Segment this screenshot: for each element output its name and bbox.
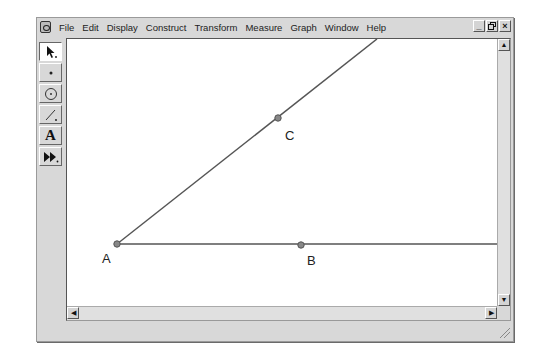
app-icon[interactable]: [40, 21, 51, 33]
menu-bar: File Edit Display Construct Transform Me…: [37, 18, 513, 36]
sketch-area: A B C ▲ ▼ ◀ ▶: [66, 38, 511, 321]
custom-tool[interactable]: [39, 147, 62, 166]
compass-icon: [44, 87, 58, 101]
straightedge-icon: [44, 108, 58, 122]
point-icon: [46, 68, 56, 78]
text-tool[interactable]: A: [39, 126, 62, 145]
minimize-icon: _: [476, 21, 481, 31]
scroll-down-button[interactable]: ▼: [498, 294, 510, 306]
window-controls: _ ×: [473, 20, 511, 32]
restore-icon: [488, 22, 496, 30]
geometry-svg: [67, 39, 497, 306]
vertical-scrollbar[interactable]: ▲ ▼: [497, 39, 510, 306]
horizontal-scrollbar[interactable]: ◀ ▶: [67, 306, 497, 320]
down-arrow-icon: ▼: [501, 296, 508, 303]
point-c[interactable]: [275, 115, 281, 121]
sketchpad-window: File Edit Display Construct Transform Me…: [36, 17, 514, 342]
straightedge-tool[interactable]: [39, 105, 62, 124]
left-arrow-icon: ◀: [71, 309, 76, 316]
point-tool[interactable]: [39, 63, 62, 82]
menu-transform[interactable]: Transform: [191, 22, 242, 33]
custom-tool-icon: [43, 151, 59, 163]
label-c[interactable]: C: [285, 128, 294, 143]
right-arrow-icon: ▶: [489, 309, 494, 316]
menu-graph[interactable]: Graph: [286, 22, 320, 33]
text-icon: A: [45, 127, 56, 144]
menu-display[interactable]: Display: [103, 22, 142, 33]
label-b[interactable]: B: [307, 253, 316, 268]
ray-ac[interactable]: [117, 39, 377, 244]
menu-file[interactable]: File: [55, 22, 78, 33]
scroll-right-button[interactable]: ▶: [485, 307, 497, 319]
close-icon: ×: [502, 21, 507, 31]
restore-button[interactable]: [486, 20, 498, 32]
scroll-up-button[interactable]: ▲: [498, 39, 510, 51]
arrow-icon: [44, 45, 58, 59]
label-a[interactable]: A: [102, 251, 111, 266]
compass-tool[interactable]: [39, 84, 62, 103]
menu-window[interactable]: Window: [321, 22, 363, 33]
close-button[interactable]: ×: [499, 20, 511, 32]
resize-grip-icon[interactable]: [500, 328, 510, 338]
up-arrow-icon: ▲: [501, 41, 508, 48]
menu-measure[interactable]: Measure: [241, 22, 286, 33]
menu-construct[interactable]: Construct: [142, 22, 191, 33]
point-b[interactable]: [298, 242, 304, 248]
minimize-button[interactable]: _: [473, 20, 485, 32]
drawing-canvas[interactable]: A B C: [67, 39, 497, 306]
scrollbar-corner: [497, 306, 510, 320]
toolbox: A: [39, 42, 62, 166]
scroll-left-button[interactable]: ◀: [67, 307, 79, 319]
menu-help[interactable]: Help: [363, 22, 391, 33]
menu-edit[interactable]: Edit: [78, 22, 102, 33]
point-a[interactable]: [114, 241, 120, 247]
selection-arrow-tool[interactable]: [39, 42, 62, 61]
